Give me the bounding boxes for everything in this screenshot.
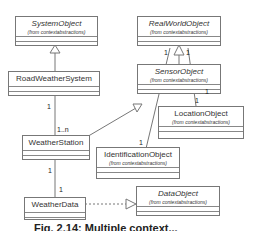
class-name: LocationObject — [159, 107, 243, 119]
class-name: WeatherData — [25, 198, 85, 210]
class-weather-station[interactable]: WeatherStation — [22, 135, 90, 160]
operations-compartment — [9, 91, 99, 96]
operations-compartment — [97, 172, 179, 177]
multiplicity-label: 1 — [164, 49, 168, 57]
multiplicity-label: 1 — [47, 103, 51, 111]
class-package: (from contextabstractions) — [97, 160, 179, 167]
class-data-object[interactable]: DataObject (from contextabstractions) — [136, 186, 220, 216]
class-road-weather-system[interactable]: RoadWeatherSystem — [8, 71, 100, 96]
class-package: (from contextabstractions) — [159, 119, 243, 126]
operations-compartment — [137, 211, 219, 216]
figure-caption: Fig. 2.14: Multiple context... — [34, 222, 178, 231]
class-name: WeatherStation — [23, 136, 89, 148]
class-package: (from contextabstractions) — [138, 29, 220, 36]
multiplicity-label: 1 — [139, 139, 143, 147]
class-package: (from contextabstractions) — [138, 77, 220, 84]
class-package: (from contextabstractions) — [16, 29, 97, 36]
operations-compartment — [138, 41, 220, 46]
multiplicity-label: 1 — [195, 97, 199, 105]
class-location-object[interactable]: LocationObject (from contextabstractions… — [158, 106, 244, 139]
class-name: DataObject — [137, 187, 219, 199]
class-name: IdentificationObject — [97, 148, 179, 160]
class-name: SystemObject — [16, 17, 97, 29]
multiplicity-label: 1 — [205, 88, 209, 96]
operations-compartment — [23, 155, 89, 160]
class-weather-data[interactable]: WeatherData — [24, 197, 86, 220]
class-real-world-object[interactable]: RealWorldObject (from contextabstraction… — [137, 16, 221, 46]
class-name: RealWorldObject — [138, 17, 220, 29]
class-package: (from contextabstractions) — [137, 199, 219, 206]
multiplicity-label: 1 — [59, 186, 63, 194]
multiplicity-label: 1 — [48, 167, 52, 175]
multiplicity-label: 1 — [186, 49, 190, 57]
class-name: SensorObject — [138, 65, 220, 77]
class-name: RoadWeatherSystem — [9, 72, 99, 84]
class-identification-object[interactable]: IdentificationObject (from contextabstra… — [96, 147, 180, 179]
class-system-object[interactable]: SystemObject (from contextabstractions) — [15, 16, 98, 46]
multiplicity-label: 1..n — [57, 126, 69, 134]
operations-compartment — [16, 41, 97, 46]
operations-compartment — [159, 131, 243, 136]
